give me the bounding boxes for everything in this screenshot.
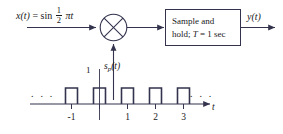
pulse-rect: [66, 88, 78, 104]
sine-function: sin: [41, 10, 53, 21]
block-line-2-suffix: = 1 sec: [198, 29, 226, 39]
axis-ticks: [72, 104, 184, 109]
block-diagram-figure: x(t) = sin 1 2 πt Sample and hold; T = 1…: [0, 0, 283, 134]
sample-and-hold-block: Sample and hold; T = 1 sec: [165, 9, 241, 46]
tick-label-2: 2: [148, 112, 164, 122]
pulse-amplitude-label: 1: [86, 66, 91, 75]
output-signal-label: y(t): [247, 12, 261, 22]
pulse-rect: [122, 88, 134, 104]
equals-sign: =: [32, 10, 38, 21]
pulse-train-waveform: [66, 88, 190, 104]
sine-argument: πt: [65, 10, 73, 21]
pulse-rect: [150, 88, 162, 104]
block-line-2-prefix: hold;: [172, 29, 193, 39]
block-text: Sample and hold; T = 1 sec: [172, 15, 226, 41]
fraction-numerator: 1: [56, 6, 62, 15]
ellipsis-right: . . .: [190, 88, 214, 99]
one-half-fraction: 1 2: [56, 6, 62, 25]
pulse-signal-label: sp(t): [104, 62, 120, 73]
pulse-rect: [178, 88, 190, 104]
time-axis-label: t: [212, 103, 215, 113]
input-signal-equation: x(t) = sin 1 2 πt: [16, 6, 73, 25]
fraction-denominator: 2: [56, 15, 62, 25]
input-variable: x(t): [16, 10, 30, 21]
pulse-signal-argument: (t): [111, 61, 120, 71]
tick-label-1: 1: [120, 112, 136, 122]
block-line-2: hold; T = 1 sec: [172, 28, 226, 41]
block-line-1: Sample and: [172, 15, 226, 28]
ellipsis-left: . . .: [31, 88, 55, 99]
tick-label-3: 3: [176, 112, 192, 122]
tick-label-minus-1: -1: [64, 112, 80, 122]
